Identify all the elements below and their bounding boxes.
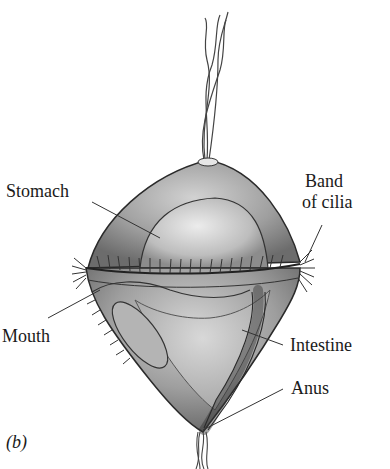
larva-illustration	[0, 0, 390, 469]
diagram-figure: Stomach Band of cilia Mouth Intestine An…	[0, 0, 390, 469]
label-stomach: Stomach	[6, 181, 69, 201]
panel-label: (b)	[6, 432, 27, 452]
label-intestine: Intestine	[290, 335, 352, 355]
apical-tuft	[202, 12, 228, 160]
label-mouth: Mouth	[2, 326, 50, 346]
label-anus: Anus	[291, 378, 329, 398]
label-band-of-cilia-line1: Band	[305, 171, 343, 191]
telotroch	[196, 432, 208, 469]
label-band-of-cilia-line2: of cilia	[302, 192, 352, 212]
